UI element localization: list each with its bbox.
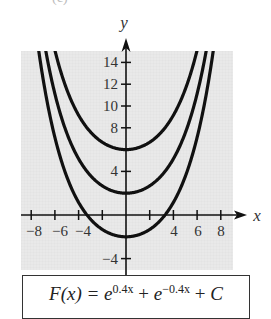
formula-exp2: −0.4x [162, 282, 190, 296]
formula-plus2: + [190, 283, 210, 304]
formula: F(x) = e0.4x + e−0.4x + C [23, 282, 249, 305]
formula-lhs: F(x) = [49, 283, 104, 304]
x-tick-label: 4 [170, 223, 178, 239]
y-tick-label: −4 [102, 251, 118, 267]
y-tick-label: 4 [111, 163, 119, 179]
formula-base1: e [104, 283, 112, 304]
x-tick-label: 8 [217, 223, 225, 239]
y-tick-label: 14 [103, 54, 119, 70]
formula-plus1: + [134, 283, 154, 304]
x-tick-label: −6 [52, 223, 68, 239]
chart: −8−6−446814121084−4 y x [0, 0, 271, 275]
formula-box: F(x) = e0.4x + e−0.4x + C [22, 275, 250, 319]
x-axis-label: x [252, 206, 261, 225]
y-tick-label: 8 [111, 120, 119, 136]
x-tick-label: −8 [26, 223, 42, 239]
formula-base2: e [154, 283, 162, 304]
y-tick-label: 10 [103, 98, 118, 114]
formula-const: C [210, 283, 223, 304]
x-tick-label: −4 [75, 223, 91, 239]
y-tick-label: 12 [103, 76, 118, 92]
x-tick-label: 6 [194, 223, 202, 239]
y-axis-label: y [118, 13, 128, 32]
formula-exp1: 0.4x [113, 282, 134, 296]
